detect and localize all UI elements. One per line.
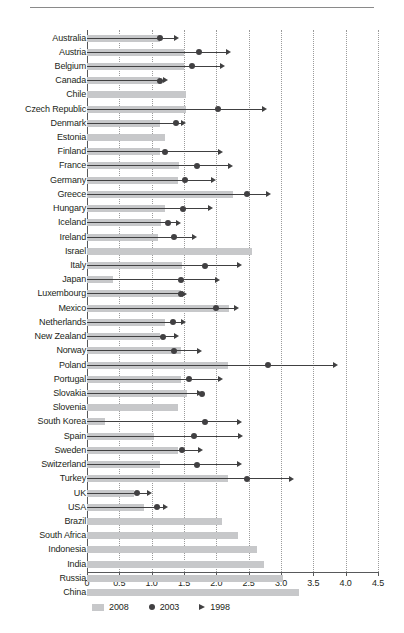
dot-marker-2003-icon (265, 362, 271, 368)
dot-marker-2003-icon (160, 334, 166, 340)
triangle-marker-1998-icon (163, 504, 168, 510)
bar-2008 (87, 91, 186, 98)
triangle-marker-1998-icon (147, 490, 152, 496)
dot-marker-2003-icon (180, 206, 186, 212)
triangle-marker-1998-icon (226, 49, 231, 55)
line-1998 (87, 151, 219, 152)
dot-marker-2003-icon (202, 263, 208, 269)
row-label: Brazil (64, 517, 86, 526)
row-label: Ireland (60, 233, 86, 242)
bar-2008 (87, 134, 165, 141)
line-1998 (87, 350, 198, 351)
dot-marker-2003-icon (134, 490, 140, 496)
row-label: Belgium (55, 62, 86, 71)
line-1998 (87, 421, 238, 422)
line-1998 (87, 393, 198, 394)
triangle-marker-1998-icon (266, 191, 271, 197)
line-1998 (87, 365, 334, 366)
row-label: UK (74, 489, 86, 498)
triangle-marker-1998-icon (198, 447, 203, 453)
dot-marker-2003-icon (194, 462, 200, 468)
legend-item: 2008 (92, 602, 129, 612)
row-label: Luxembourg (37, 289, 86, 298)
dot-marker-2003-icon (154, 504, 160, 510)
triangle-marker-1998-icon (237, 461, 242, 467)
triangle-marker-1998-icon (197, 348, 202, 354)
row-label: India (67, 560, 86, 569)
dot-marker-2003-icon (157, 35, 163, 41)
triangle-marker-1998-icon (208, 205, 213, 211)
x-tick-label: 4.0 (340, 578, 352, 588)
bar-2008 (87, 546, 257, 553)
triangle-marker-1998-icon (218, 376, 223, 382)
legend-label: 1998 (210, 602, 230, 612)
dot-marker-2003-icon (178, 277, 184, 283)
dot-marker-2003-icon (194, 163, 200, 169)
row-label: Turkey (60, 474, 86, 483)
line-1998 (87, 293, 183, 294)
row-label: Chile (66, 90, 86, 99)
bar-2008 (87, 589, 299, 596)
row-label: Hungary (53, 204, 86, 213)
line-1998 (87, 507, 164, 508)
gridline (313, 30, 315, 572)
triangle-marker-1998-icon (181, 120, 186, 126)
triangle-marker-1998-icon (220, 63, 225, 69)
dot-and-bar-chart: 00.51.01.52.02.53.03.54.04.5 AustraliaAu… (0, 0, 404, 633)
row-label: Portugal (54, 375, 86, 384)
bar-2008 (87, 248, 252, 255)
line-1998 (87, 109, 263, 110)
row-label: South Korea (38, 417, 86, 426)
triangle-marker-1998-icon (174, 35, 179, 41)
x-tick-label: 4.5 (372, 578, 384, 588)
line-1998 (87, 322, 182, 323)
line-1998 (87, 66, 221, 67)
legend-item: 1998 (197, 602, 230, 612)
dot-marker-2003-icon (196, 49, 202, 55)
dot-marker-2003-icon (173, 120, 179, 126)
row-label: Poland (59, 361, 86, 370)
legend-dot-swatch-icon (149, 604, 155, 610)
bar-2008 (87, 518, 222, 525)
row-label: Netherlands (39, 318, 86, 327)
line-1998 (87, 80, 164, 81)
row-label: New Zealand (35, 332, 86, 341)
gridline (346, 30, 348, 572)
dot-marker-2003-icon (157, 78, 163, 84)
row-label: Czech Republic (25, 105, 86, 114)
bar-2008 (87, 575, 283, 582)
dot-marker-2003-icon (191, 433, 197, 439)
dot-marker-2003-icon (186, 376, 192, 382)
triangle-marker-1998-icon (237, 419, 242, 425)
triangle-marker-1998-icon (211, 177, 216, 183)
triangle-marker-1998-icon (238, 433, 243, 439)
chart-legend: 200820031998 (92, 602, 248, 612)
row-label: Greece (57, 190, 86, 199)
dot-marker-2003-icon (215, 106, 221, 112)
triangle-marker-1998-icon (228, 163, 233, 169)
row-label: Australia (52, 34, 86, 43)
gridline (249, 30, 251, 572)
row-label: Denmark (51, 119, 86, 128)
triangle-marker-1998-icon (237, 262, 242, 268)
dot-marker-2003-icon (199, 391, 205, 397)
line-1998 (87, 208, 209, 209)
row-label: Mexico (58, 304, 86, 313)
row-label: Norway (56, 346, 86, 355)
line-1998 (87, 279, 216, 280)
x-tick (378, 572, 379, 576)
triangle-marker-1998-icon (174, 333, 179, 339)
row-label: Spain (64, 432, 86, 441)
dot-marker-2003-icon (170, 319, 176, 325)
line-1998 (87, 165, 229, 166)
row-label: Canada (55, 76, 86, 85)
bar-2008 (87, 404, 178, 411)
triangle-marker-1998-icon (163, 77, 168, 83)
triangle-marker-1998-icon (176, 220, 181, 226)
line-1998 (87, 464, 238, 465)
triangle-marker-1998-icon (333, 362, 338, 368)
line-1998 (87, 180, 212, 181)
row-label: Japan (62, 275, 86, 284)
dot-marker-2003-icon (182, 177, 188, 183)
dot-marker-2003-icon (165, 220, 171, 226)
